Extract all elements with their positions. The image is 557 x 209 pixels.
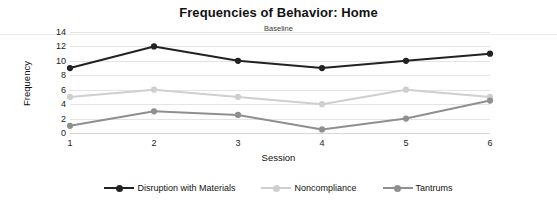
series-2 xyxy=(67,87,493,108)
data-point-marker xyxy=(319,65,325,71)
series-line xyxy=(70,101,490,130)
legend-swatch-icon xyxy=(383,183,413,193)
data-point-marker xyxy=(235,112,241,118)
data-point-marker xyxy=(403,58,409,64)
legend-swatch-icon xyxy=(104,183,134,193)
data-point-marker xyxy=(403,87,409,93)
legend-item[interactable]: Tantrums xyxy=(383,183,453,193)
chart-container: Frequencies of Behavior: Home Baseline F… xyxy=(0,0,557,209)
data-point-marker xyxy=(67,94,73,100)
data-point-marker xyxy=(319,126,325,132)
series-3 xyxy=(67,97,493,132)
data-point-marker xyxy=(151,108,157,114)
data-point-marker xyxy=(151,87,157,93)
legend-label: Tantrums xyxy=(416,183,453,193)
data-point-marker xyxy=(319,101,325,107)
data-point-marker xyxy=(67,123,73,129)
data-point-marker xyxy=(151,43,157,49)
data-point-marker xyxy=(487,97,493,103)
series-lines xyxy=(0,0,557,209)
series-line xyxy=(70,46,490,68)
legend-label: Disruption with Materials xyxy=(137,183,235,193)
data-point-marker xyxy=(235,94,241,100)
data-point-marker xyxy=(403,115,409,121)
data-point-marker xyxy=(235,58,241,64)
chart-legend: Disruption with MaterialsNoncomplianceTa… xyxy=(0,183,557,193)
legend-item[interactable]: Noncompliance xyxy=(261,183,356,193)
legend-label: Noncompliance xyxy=(294,183,356,193)
legend-item[interactable]: Disruption with Materials xyxy=(104,183,235,193)
data-point-marker xyxy=(487,51,493,57)
series-line xyxy=(70,90,490,104)
legend-dot-icon xyxy=(273,185,280,192)
legend-swatch-icon xyxy=(261,183,291,193)
series-1 xyxy=(67,43,493,71)
legend-dot-icon xyxy=(394,185,401,192)
legend-dot-icon xyxy=(116,185,123,192)
data-point-marker xyxy=(67,65,73,71)
